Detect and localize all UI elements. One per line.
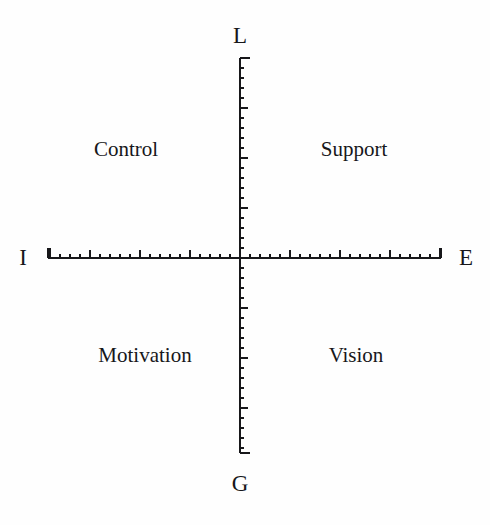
quadrant-label-lower-right: Vision <box>329 345 384 366</box>
axis-endpoint-label-left: I <box>19 246 27 269</box>
quadrant-label-lower-left: Motivation <box>98 345 191 366</box>
axis-lines <box>48 58 441 453</box>
quadrant-diagram: L G I E Control Support Motivation Visio… <box>0 0 490 525</box>
axis-endpoint-label-right: E <box>459 246 473 269</box>
axes-svg <box>0 0 490 525</box>
axis-endpoint-label-top: L <box>233 24 247 47</box>
quadrant-label-upper-left: Control <box>94 139 158 160</box>
axis-ticks <box>48 58 441 453</box>
axis-endpoint-label-bottom: G <box>232 472 249 495</box>
quadrant-label-upper-right: Support <box>321 139 388 160</box>
